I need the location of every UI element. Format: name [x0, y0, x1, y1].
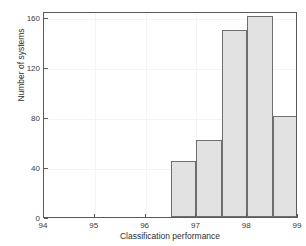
y-tick-mark — [44, 68, 48, 69]
x-tick-mark — [246, 214, 247, 218]
y-tick-label: 40 — [31, 164, 40, 173]
histogram-bar — [196, 140, 221, 217]
x-tick-label: 98 — [242, 221, 251, 230]
histogram-bar — [171, 161, 196, 217]
x-tick-mark — [94, 214, 95, 218]
gridline-vertical — [146, 13, 147, 217]
y-tick-label: 120 — [27, 64, 40, 73]
y-axis-title: Number of systems — [16, 0, 26, 135]
plot-area — [43, 12, 297, 218]
x-axis-title: Classification performance — [43, 231, 297, 241]
y-tick-mark — [44, 218, 48, 219]
x-tick-mark — [145, 214, 146, 218]
histogram-bar — [247, 16, 272, 217]
histogram-bar — [273, 116, 297, 217]
y-tick-mark — [44, 118, 48, 119]
histogram-figure: 949596979899 04080120160 Classification … — [0, 0, 306, 246]
gridline-vertical — [95, 13, 96, 217]
x-tick-label: 96 — [140, 221, 149, 230]
y-tick-mark — [44, 18, 48, 19]
x-tick-label: 97 — [191, 221, 200, 230]
x-tick-mark — [195, 214, 196, 218]
y-tick-label: 0 — [36, 214, 40, 223]
y-tick-label: 80 — [31, 114, 40, 123]
y-tick-mark — [44, 168, 48, 169]
x-tick-label: 99 — [293, 221, 302, 230]
x-tick-mark — [297, 214, 298, 218]
y-tick-label: 160 — [27, 14, 40, 23]
x-tick-label: 95 — [89, 221, 98, 230]
histogram-bar — [222, 30, 247, 217]
